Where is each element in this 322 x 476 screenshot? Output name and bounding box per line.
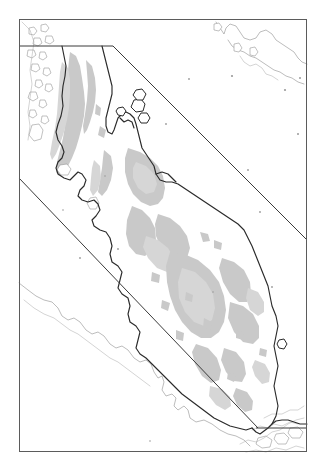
- speck-12: [149, 440, 151, 442]
- speck-9: [247, 169, 249, 171]
- island-tao: [138, 113, 150, 123]
- speck-5: [188, 78, 190, 80]
- speck-6: [79, 257, 81, 259]
- speck-13: [104, 175, 106, 177]
- speck-1: [231, 75, 233, 77]
- speck-8: [259, 211, 261, 213]
- speck-14: [62, 209, 64, 211]
- speck-10: [165, 123, 167, 125]
- map-figure: [0, 0, 322, 476]
- speck-15: [212, 291, 214, 293]
- speck-2: [284, 89, 286, 91]
- speck-7: [117, 248, 119, 250]
- speck-4: [297, 133, 299, 135]
- map-canvas: [0, 0, 322, 476]
- speck-11: [271, 286, 273, 288]
- speck-3: [299, 77, 301, 79]
